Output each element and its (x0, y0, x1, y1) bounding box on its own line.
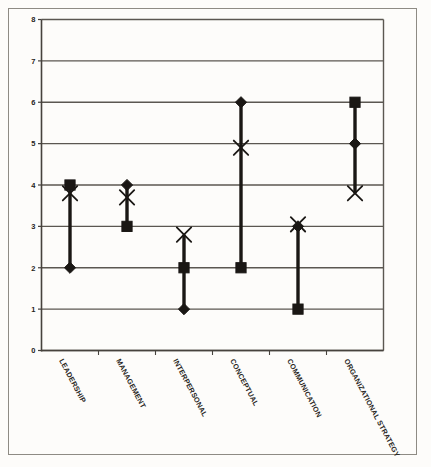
y-tick-label-1: 1 (31, 305, 35, 314)
x-axis-label-2: INTERPERSONAL (171, 357, 209, 418)
y-tick-label-6: 6 (31, 98, 35, 107)
marker-square-3 (236, 263, 246, 273)
range-scatter-chart: 012345678LEADERSHIPMANAGEMENTINTERPERSON… (0, 0, 431, 467)
x-axis-label-3: CONCEPTUAL (228, 357, 261, 408)
marker-square-5 (350, 97, 360, 107)
y-tick-label-2: 2 (31, 264, 35, 273)
marker-square-4 (293, 304, 303, 314)
chart-container: 012345678LEADERSHIPMANAGEMENTINTERPERSON… (0, 0, 431, 467)
y-axis-ticks: 012345678 (31, 15, 41, 355)
marker-square-2 (179, 263, 189, 273)
x-axis-label-0: LEADERSHIP (57, 357, 88, 404)
y-tick-label-7: 7 (31, 57, 35, 66)
x-axis-label-4: COMMUNICATION (285, 357, 323, 419)
x-axis-label-1: MANAGEMENT (114, 357, 148, 410)
x-axis-label-5: ORGANIZATIONAL STRATEGY (342, 357, 402, 458)
x-axis-labels: LEADERSHIPMANAGEMENTINTERPERSONALCONCEPT… (57, 357, 402, 458)
y-tick-label-5: 5 (31, 139, 35, 148)
y-tick-label-4: 4 (31, 181, 36, 190)
y-tick-label-0: 0 (31, 346, 35, 355)
y-tick-label-8: 8 (31, 15, 35, 24)
y-tick-label-3: 3 (31, 222, 35, 231)
marker-square-1 (122, 221, 132, 231)
